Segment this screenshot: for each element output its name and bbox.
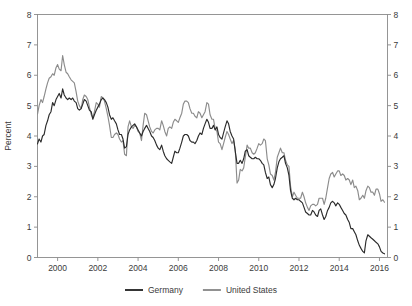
x-tick-label: 2006 [169,263,188,273]
legend-label-germany: Germany [148,285,184,295]
y-tick-label-right: 8 [394,10,399,20]
x-tick-label: 2002 [88,263,107,273]
y-tick-label-left: 6 [27,70,32,80]
y-tick-label-right: 1 [394,222,399,232]
y-tick-label-right: 7 [394,40,399,50]
x-tick-label: 2016 [370,263,389,273]
y-tick-label-left: 0 [27,253,32,263]
x-tick-label: 2012 [290,263,309,273]
y-tick-label-left: 4 [27,131,32,141]
chart-figure: 012345678 012345678 20002002200420062008… [0,0,412,306]
y-tick-label-right: 3 [394,161,399,171]
line-chart-svg: 012345678 012345678 20002002200420062008… [0,0,412,306]
y-tick-label-left: 2 [27,192,32,202]
x-tick-label: 2008 [209,263,228,273]
y-tick-label-left: 3 [27,161,32,171]
y-tick-label-left: 7 [27,40,32,50]
y-tick-label-right: 5 [394,101,399,111]
chart-background [0,0,412,306]
x-tick-label: 2010 [249,263,268,273]
y-tick-label-right: 6 [394,70,399,80]
y-tick-label-left: 5 [27,101,32,111]
y-tick-label-right: 0 [394,253,399,263]
x-tick-label: 2014 [330,263,349,273]
y-axis-label: Percent [3,121,13,151]
x-tick-label: 2000 [48,263,67,273]
legend-label-united-states: United States [226,285,277,295]
y-tick-label-right: 2 [394,192,399,202]
y-tick-label-right: 4 [394,131,399,141]
y-tick-label-left: 1 [27,222,32,232]
x-tick-label: 2004 [129,263,148,273]
y-tick-label-left: 8 [27,10,32,20]
